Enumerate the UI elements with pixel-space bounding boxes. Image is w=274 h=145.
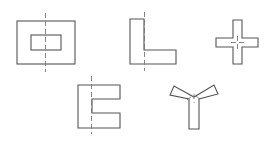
y-shape bbox=[170, 85, 218, 129]
cross-shape bbox=[216, 20, 258, 64]
hollow-rectangle-shape bbox=[17, 13, 75, 72]
cross-outline bbox=[216, 20, 258, 64]
e-outline bbox=[78, 85, 120, 128]
y-outline bbox=[170, 85, 218, 129]
l-outline bbox=[130, 19, 176, 64]
e-shape bbox=[78, 76, 120, 134]
inner-rectangle bbox=[31, 35, 61, 50]
outer-rectangle bbox=[17, 21, 75, 64]
l-shape bbox=[130, 12, 176, 71]
diagram-canvas bbox=[0, 0, 274, 145]
